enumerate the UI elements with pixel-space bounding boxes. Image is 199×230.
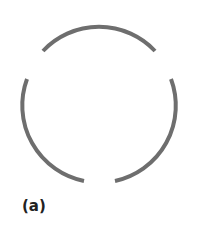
top-arc xyxy=(43,27,155,51)
figure-label: (a) xyxy=(22,197,46,215)
left-arc xyxy=(22,79,84,181)
right-arc xyxy=(115,79,176,181)
broken-circle-diagram xyxy=(0,0,199,230)
